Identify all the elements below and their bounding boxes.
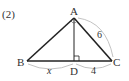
diagram: (2) A B C D 6 x 4 [0,0,129,81]
triangle-figure: (2) A B C D 6 x 4 [0,0,129,81]
vertex-label-B: B [17,56,24,68]
dimension-arc-AC [78,18,113,57]
length-label-AC: 6 [97,29,102,40]
vertex-label-D: D [70,65,78,77]
problem-label: (2) [2,8,15,21]
length-label-DC: 4 [91,65,96,76]
side-AB [27,18,74,61]
side-AC [74,18,112,61]
vertex-label-A: A [70,5,78,17]
vertex-label-C: C [113,56,120,68]
length-label-BD: x [46,65,52,76]
